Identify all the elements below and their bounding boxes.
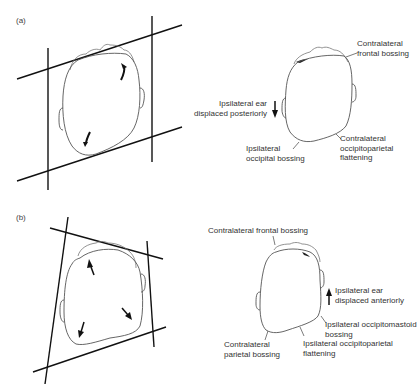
arrow-down-head bbox=[272, 110, 278, 118]
bottom-oblique-line bbox=[33, 327, 166, 372]
arrow-top-head bbox=[87, 259, 93, 268]
annotation-contralateral-occipitoparietal-flattening: Contralateral occipitoparietal flattenin… bbox=[340, 134, 393, 163]
annotation-contralateral-frontal-bossing-b: Contralateral frontal bossing bbox=[208, 226, 308, 236]
skull-shape-figure: (a) (b) Contralateral frontal bossing Ip… bbox=[0, 0, 417, 388]
left-ear bbox=[60, 300, 64, 322]
top-oblique-line bbox=[50, 228, 163, 259]
panel-a-parallelogram-diagram bbox=[17, 16, 182, 190]
annotation-ipsilateral-occipitomastoid-bossing: Ipsilateral occipitomastoid bossing bbox=[325, 320, 417, 339]
leader-frontal-bossing bbox=[273, 236, 275, 245]
rotation-arrow-top-head bbox=[121, 63, 127, 69]
panel-label-a: (a) bbox=[16, 16, 26, 25]
head-outline bbox=[260, 249, 321, 333]
leader-frontal-bossing bbox=[346, 53, 357, 57]
annotation-ipsilateral-ear-posterior: Ipsilateral ear displaced posteriorly bbox=[194, 99, 267, 118]
head-outline bbox=[63, 53, 140, 155]
outward-arrow-bottom-right-icon bbox=[122, 308, 128, 315]
right-ear bbox=[140, 88, 144, 108]
annotation-ipsilateral-occipital-bossing: Ipsilateral occipital bossing bbox=[246, 144, 305, 163]
outward-arrow-top-icon bbox=[91, 267, 94, 275]
leader-parietal-bossing bbox=[265, 331, 268, 340]
forehead-contour bbox=[274, 243, 320, 263]
panel-b-annotated-head bbox=[256, 236, 332, 340]
top-oblique-line bbox=[17, 25, 182, 79]
annotation-ipsilateral-occipitoparietal-flattening: Ipsilateral occipitoparietal flattening bbox=[303, 339, 393, 358]
annotation-contralateral-parietal-bossing: Contralateral parietal bossing bbox=[224, 340, 280, 359]
bottom-oblique-line bbox=[17, 127, 182, 181]
left-ear bbox=[256, 292, 260, 310]
right-ear bbox=[352, 84, 356, 102]
leader-occipitoparietal-flattening bbox=[300, 327, 304, 336]
annotation-contralateral-frontal-bossing: Contralateral frontal bossing bbox=[357, 39, 409, 58]
frontal-bossing-shade bbox=[302, 252, 310, 257]
rotation-arrow-bottom-head bbox=[83, 142, 88, 147]
head-outline bbox=[64, 249, 143, 344]
arrow-up-head bbox=[326, 288, 332, 296]
arrow-bottom-left-head bbox=[78, 330, 84, 338]
panel-label-b: (b) bbox=[16, 213, 26, 222]
panel-b-trapezoid-diagram bbox=[33, 217, 166, 384]
head-outline bbox=[285, 55, 352, 141]
annotation-ipsilateral-ear-anterior: Ipsilateral ear displaced anteriorly bbox=[335, 286, 404, 305]
outward-arrow-bottom-left-icon bbox=[81, 322, 84, 332]
